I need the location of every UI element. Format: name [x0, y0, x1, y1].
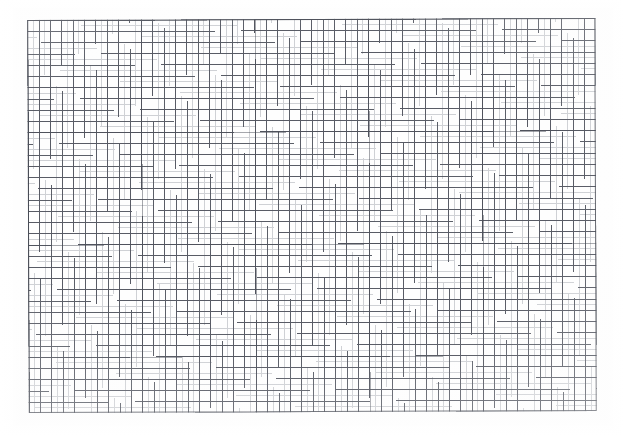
graph-paper-page [0, 0, 624, 435]
plotting-grid[interactable] [27, 18, 597, 413]
grid-outer-border [27, 18, 597, 413]
